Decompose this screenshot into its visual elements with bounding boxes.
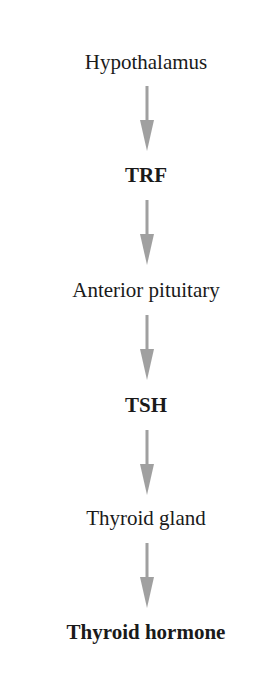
node-tsh: TSH [0,392,269,418]
arrow-down-icon [139,200,155,266]
node-thyroid-hormone: Thyroid hormone [0,619,269,645]
arrow-down-icon [139,430,155,496]
node-thyroid-gland: Thyroid gland [0,505,269,531]
node-hypothalamus: Hypothalamus [0,49,269,75]
node-anterior-pituitary: Anterior pituitary [0,277,269,303]
arrow-down-icon [139,315,155,381]
node-trf: TRF [0,162,269,188]
arrow-down-icon [139,86,155,152]
arrow-down-icon [139,543,155,609]
